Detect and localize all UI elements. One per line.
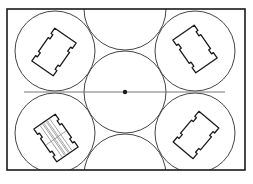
- chip-top-left: [32, 28, 76, 76]
- chip-bottom-right: [173, 111, 219, 158]
- axis-layer: [24, 90, 225, 94]
- chip-outline: [173, 25, 217, 73]
- center-point: [123, 90, 127, 94]
- circle-bottom-middle-partial: [84, 134, 166, 184]
- chip-top-right: [173, 25, 217, 73]
- chip-bottom-left: [34, 114, 78, 162]
- circle-packing-diagram: [0, 0, 253, 184]
- chip-outline: [173, 111, 219, 158]
- chip-outline: [32, 28, 76, 76]
- circle-top-middle-partial: [84, 0, 166, 50]
